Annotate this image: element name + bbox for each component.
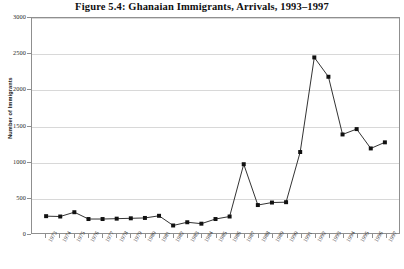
data-series-line	[32, 18, 399, 233]
x-axis-tick-mark	[116, 234, 117, 238]
data-point-marker	[58, 215, 62, 219]
y-axis-tick-label: 3000	[0, 13, 26, 20]
figure-container: Figure 5.4: Ghanaian Immigrants, Arrival…	[0, 0, 404, 269]
x-axis-tick-mark	[258, 234, 259, 238]
data-point-marker	[86, 217, 90, 221]
data-point-marker	[72, 210, 76, 214]
data-point-marker	[242, 162, 246, 166]
figure-title: Figure 5.4: Ghanaian Immigrants, Arrival…	[0, 1, 404, 12]
y-axis-tick-label: 0	[0, 230, 26, 237]
x-axis-tick-mark	[357, 234, 358, 238]
y-axis-tick-label: 500	[0, 194, 26, 201]
data-point-marker	[341, 132, 345, 136]
x-axis-tick-mark	[372, 234, 373, 238]
x-axis-tick-mark	[386, 234, 387, 238]
data-point-marker	[101, 217, 105, 221]
x-axis: 1973197419751976197719781979198019811982…	[31, 234, 400, 269]
data-point-marker	[369, 146, 373, 150]
plot-area	[31, 17, 400, 234]
data-point-marker	[214, 217, 218, 221]
x-axis-tick-mark	[287, 234, 288, 238]
data-point-marker	[383, 140, 387, 144]
data-point-marker	[157, 214, 161, 218]
x-axis-tick-mark	[315, 234, 316, 238]
y-axis-tick-label: 1000	[0, 158, 26, 165]
data-point-marker	[326, 75, 330, 79]
data-point-marker	[143, 216, 147, 220]
x-axis-tick-mark	[201, 234, 202, 238]
data-point-marker	[256, 203, 260, 207]
x-axis-tick-mark	[272, 234, 273, 238]
x-axis-tick-mark	[230, 234, 231, 238]
data-point-marker	[270, 201, 274, 205]
x-axis-tick-mark	[59, 234, 60, 238]
x-axis-tick-mark	[244, 234, 245, 238]
y-axis-tick-label: 2500	[0, 49, 26, 56]
data-point-marker	[355, 127, 359, 131]
data-point-marker	[312, 55, 316, 59]
y-axis-tick-label: 2000	[0, 85, 26, 92]
y-axis-label: Number of Immigrants	[7, 60, 13, 156]
x-axis-tick-mark	[329, 234, 330, 238]
x-axis-tick-mark	[45, 234, 46, 238]
data-point-marker	[171, 223, 175, 227]
x-axis-tick-mark	[173, 234, 174, 238]
data-point-marker	[199, 222, 203, 226]
data-point-marker	[115, 217, 119, 221]
data-point-marker	[129, 216, 133, 220]
data-point-marker	[298, 150, 302, 154]
data-point-marker	[228, 215, 232, 219]
x-axis-tick-mark	[343, 234, 344, 238]
x-axis-tick-mark	[88, 234, 89, 238]
x-axis-tick-mark	[159, 234, 160, 238]
series-polyline	[46, 57, 385, 225]
x-axis-tick-mark	[216, 234, 217, 238]
x-axis-tick-mark	[102, 234, 103, 238]
data-point-marker	[284, 200, 288, 204]
x-axis-tick-mark	[301, 234, 302, 238]
data-point-marker	[185, 220, 189, 224]
x-axis-tick-mark	[74, 234, 75, 238]
data-point-marker	[44, 214, 48, 218]
y-axis-tick-label: 1500	[0, 122, 26, 129]
x-axis-tick-mark	[145, 234, 146, 238]
x-axis-tick-mark	[187, 234, 188, 238]
x-axis-tick-mark	[130, 234, 131, 238]
